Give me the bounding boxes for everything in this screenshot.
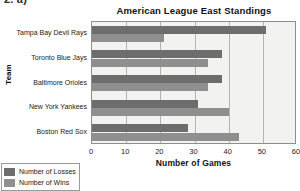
- x-axis-tick-label: 30: [184, 147, 204, 156]
- bars-layer: [92, 22, 295, 143]
- chart-title: American League East Standings: [88, 5, 300, 16]
- bar-wins: [92, 83, 208, 91]
- x-axis-tick-label: 0: [81, 147, 101, 156]
- bar-group: [92, 120, 295, 145]
- bar-losses: [92, 50, 222, 58]
- bar-wins: [92, 108, 229, 116]
- bar-losses: [92, 124, 188, 132]
- x-axis-tick-label: 40: [218, 147, 238, 156]
- bar-group: [92, 47, 295, 72]
- x-axis-tick-label: 60: [286, 147, 300, 156]
- bar-wins: [92, 133, 239, 141]
- legend-swatch-losses: [4, 168, 15, 176]
- y-axis-tick-label: Toronto Blue Jays: [0, 54, 87, 61]
- bar-wins: [92, 59, 208, 67]
- plot-area: [91, 21, 296, 144]
- x-axis-tick-label: 50: [252, 147, 272, 156]
- x-axis-tick-label: 10: [115, 147, 135, 156]
- bar-group: [92, 71, 295, 96]
- x-axis-tick-label: 20: [149, 147, 169, 156]
- bar-group: [92, 22, 295, 47]
- chart-legend: Number of LossesNumber of Wins: [1, 163, 80, 191]
- legend-item: Number of Losses: [4, 166, 76, 177]
- bar-losses: [92, 100, 198, 108]
- bar-losses: [92, 26, 266, 34]
- legend-label: Number of Losses: [19, 168, 76, 175]
- y-axis-tick-label: Boston Red Sox: [0, 128, 87, 135]
- bar-wins: [92, 34, 164, 42]
- legend-label: Number of Wins: [19, 179, 69, 186]
- x-axis-title: Number of Games: [91, 158, 296, 168]
- exercise-number-label: 2. a): [4, 0, 27, 5]
- y-axis-tick-label: New York Yankees: [0, 103, 87, 110]
- legend-item: Number of Wins: [4, 177, 76, 188]
- legend-swatch-wins: [4, 179, 15, 187]
- y-axis-tick-label: Baltimore Orioles: [0, 79, 87, 86]
- bar-group: [92, 96, 295, 121]
- y-axis-tick-label: Tampa Bay Devil Rays: [0, 29, 87, 36]
- bar-losses: [92, 75, 222, 83]
